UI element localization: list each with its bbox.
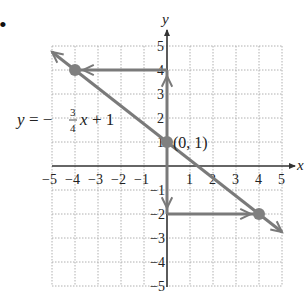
- data-point: [161, 136, 173, 148]
- bullet: •: [0, 12, 7, 37]
- y-tick-label: −3: [150, 231, 165, 246]
- svg-text:x: x: [79, 110, 88, 129]
- x-tick-label: −3: [88, 172, 103, 187]
- y-axis-label: y: [160, 11, 169, 27]
- x-tick-label: 3: [232, 172, 239, 187]
- equation-rhs: + 1: [92, 110, 114, 129]
- graph: • x y −5−4−3−2−112345 54321−1−2−3−4−5 (0…: [0, 0, 308, 301]
- x-tick-label: −1: [134, 172, 149, 187]
- x-tick-label: 4: [255, 172, 262, 187]
- x-tick-label: 1: [186, 172, 193, 187]
- y-tick-label: 3: [157, 87, 164, 102]
- y-tick-label: −4: [150, 255, 165, 270]
- data-point: [69, 64, 81, 76]
- intercept-label: (0, 1): [173, 134, 208, 152]
- y-tick-label: 2: [157, 111, 164, 126]
- x-tick-label: −5: [42, 172, 57, 187]
- svg-text:y: y: [15, 110, 25, 129]
- x-tick-label: −2: [111, 172, 126, 187]
- x-axis-label: x: [296, 157, 304, 173]
- x-tick-label: 5: [278, 172, 285, 187]
- equation: y = − 3 4 x + 1: [15, 106, 114, 134]
- y-tick-label: −5: [150, 279, 165, 294]
- y-tick-label: −1: [150, 183, 165, 198]
- equation-denominator: 4: [70, 122, 76, 134]
- equation-numerator: 3: [70, 106, 76, 118]
- data-point: [253, 208, 265, 220]
- y-tick-label: −2: [150, 207, 165, 222]
- x-tick-label: −4: [65, 172, 80, 187]
- y-tick-label: 5: [157, 39, 164, 54]
- equation-lhs: = −: [29, 110, 52, 129]
